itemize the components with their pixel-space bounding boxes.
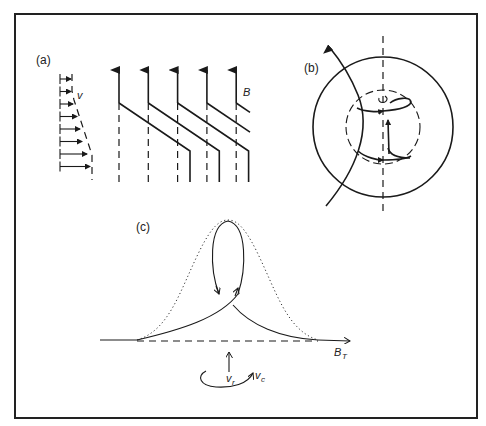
axis-label-bt: B	[334, 346, 341, 358]
vc-sub: c	[261, 375, 265, 384]
field-line-tilted	[119, 103, 190, 182]
falling-line-right	[233, 305, 318, 340]
velocity-profile	[60, 74, 92, 180]
tube-top-left	[357, 108, 383, 112]
loop	[212, 221, 243, 294]
figure: (a) v B (b) (c) B T	[0, 0, 486, 426]
dotted-envelope	[137, 220, 318, 340]
field-line-arc	[326, 48, 363, 206]
velocity-label: v	[77, 89, 84, 101]
loop-arrow-left	[216, 286, 219, 294]
figure-frame	[15, 14, 477, 418]
panel-c: (c) B T v r v c	[100, 220, 350, 387]
tube-lower-right	[388, 148, 410, 158]
panel-b: (b)	[304, 36, 453, 213]
rotation-glyph-tip	[385, 96, 387, 98]
panel-c-label: (c)	[136, 220, 150, 234]
field-label-b: B	[243, 86, 250, 98]
field-lines	[119, 70, 250, 182]
tube-bottom-left	[358, 151, 383, 160]
field-line-tilted	[148, 103, 219, 182]
field-line-tilted	[178, 103, 249, 182]
panel-b-label: (b)	[304, 61, 319, 75]
panel-a-label: (a)	[36, 53, 51, 67]
axis-label-bt-sub: T	[342, 352, 348, 361]
axis-arrow-bt	[318, 340, 350, 341]
panel-a: (a) v B	[36, 53, 250, 182]
rising-line-left	[137, 294, 238, 340]
field-line-tilted	[236, 103, 250, 112]
